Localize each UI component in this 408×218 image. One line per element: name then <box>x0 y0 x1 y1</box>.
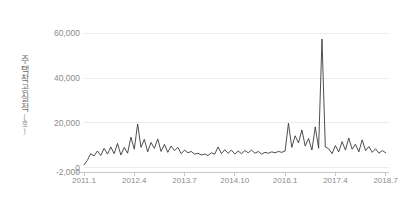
y-axis-tick-label: 60,000 <box>54 28 80 38</box>
x-axis-tick-label: 2011.1 <box>72 176 96 185</box>
x-axis-tick-label: 2016.1 <box>273 176 297 185</box>
x-axis-tick-label: 2013.7 <box>172 176 196 185</box>
x-axis-tick-label: 2018.7 <box>373 176 397 185</box>
chart-container: 주택착공실적 (호) 60,00040,00020,0000-2,000 201… <box>0 0 408 218</box>
x-axis-tick-label: 2012.4 <box>122 176 146 185</box>
y-axis-tick-label: 20,000 <box>54 118 80 128</box>
data-line-series <box>84 39 386 165</box>
plot-area <box>84 20 389 172</box>
x-axis-tick-label: 2014.10 <box>220 176 249 185</box>
chart-svg <box>84 20 389 172</box>
y-axis-tick-labels: 60,00040,00020,0000-2,000 <box>28 0 80 218</box>
gridlines <box>84 33 389 167</box>
x-axis-tick-label: 2017.4 <box>323 176 347 185</box>
y-axis-tick-label: 40,000 <box>54 73 80 83</box>
